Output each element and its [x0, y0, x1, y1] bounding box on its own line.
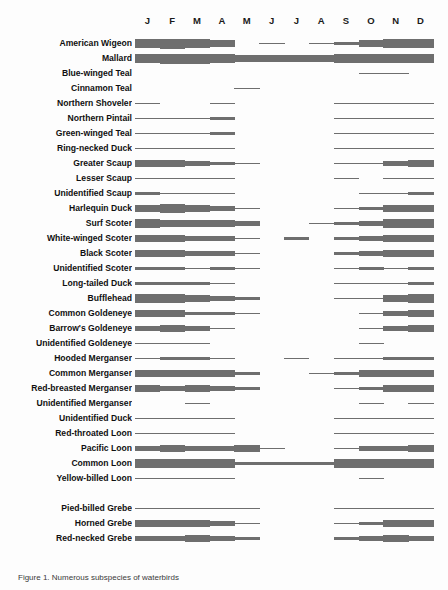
species-row[interactable]: Pied-billed Grebe	[0, 501, 448, 516]
band-segment	[383, 446, 408, 451]
abundance-band	[135, 126, 433, 141]
species-row[interactable]: Hooded Merganser	[0, 351, 448, 366]
band-segment	[383, 54, 408, 63]
species-row[interactable]: Common Merganser	[0, 366, 448, 381]
band-segment	[210, 148, 235, 149]
band-segment	[408, 310, 433, 317]
species-label: Hooded Merganser	[0, 351, 132, 366]
species-row[interactable]: Common Loon	[0, 456, 448, 471]
band-segment	[185, 282, 210, 285]
species-row[interactable]: Unidentified Goldeneye	[0, 336, 448, 351]
abundance-band	[135, 381, 433, 396]
band-segment	[334, 433, 359, 434]
band-segment	[160, 310, 185, 317]
species-row[interactable]: Barrow's Goldeneye	[0, 321, 448, 336]
species-row[interactable]: Cinnamon Teal	[0, 81, 448, 96]
species-row[interactable]: Green-winged Teal	[0, 126, 448, 141]
species-row[interactable]: Pacific Loon	[0, 441, 448, 456]
band-segment	[334, 523, 359, 524]
band-segment	[359, 133, 384, 134]
species-row[interactable]: Bufflehead	[0, 291, 448, 306]
band-segment	[408, 325, 433, 332]
species-row[interactable]: Common Goldeneye	[0, 306, 448, 321]
species-row[interactable]: Harlequin Duck	[0, 201, 448, 216]
species-row[interactable]: Unidentified Scaup	[0, 186, 448, 201]
species-row[interactable]: Black Scoter	[0, 246, 448, 261]
band-segment	[135, 343, 160, 344]
species-row[interactable]: Red-necked Grebe	[0, 531, 448, 546]
band-segment	[383, 148, 408, 149]
band-segment	[210, 40, 235, 47]
species-label: White-winged Scoter	[0, 231, 132, 246]
species-row[interactable]: Surf Scoter	[0, 216, 448, 231]
band-segment	[210, 433, 235, 434]
band-segment	[160, 294, 185, 303]
band-segment	[210, 54, 235, 63]
band-segment	[135, 235, 160, 242]
band-segment	[234, 387, 259, 390]
species-row[interactable]: Lesser Scaup	[0, 171, 448, 186]
band-segment	[284, 462, 309, 465]
band-segment	[334, 537, 359, 540]
band-segment	[383, 535, 408, 542]
species-row[interactable]: Northern Shoveler	[0, 96, 448, 111]
species-row[interactable]: Unidentified Scoter	[0, 261, 448, 276]
band-segment	[408, 54, 433, 63]
band-segment	[334, 222, 359, 225]
abundance-band	[135, 51, 433, 66]
band-segment	[185, 418, 210, 419]
band-segment	[334, 237, 359, 240]
waterbird-phenology-figure: JFMAMJJASOND American WigeonMallardBlue-…	[0, 0, 448, 590]
species-row[interactable]: Mallard	[0, 51, 448, 66]
species-row[interactable]: Yellow-billed Loon	[0, 471, 448, 486]
band-segment	[408, 536, 433, 541]
band-segment	[359, 251, 384, 256]
abundance-band	[135, 171, 433, 186]
band-segment	[309, 55, 334, 62]
species-row[interactable]: Long-tailed Duck	[0, 276, 448, 291]
species-label: Red-throated Loon	[0, 426, 132, 441]
band-segment	[359, 118, 384, 119]
species-row[interactable]: Horned Grebe	[0, 516, 448, 531]
band-segment	[135, 267, 160, 270]
species-row[interactable]: Unidentified Duck	[0, 411, 448, 426]
species-row[interactable]: Red-breasted Merganser	[0, 381, 448, 396]
species-row[interactable]: American Wigeon	[0, 36, 448, 51]
band-segment	[334, 418, 359, 419]
species-row[interactable]: Unidentified Merganser	[0, 396, 448, 411]
band-segment	[210, 103, 235, 104]
band-segment	[185, 535, 210, 542]
band-segment	[135, 39, 160, 48]
month-label-2: M	[185, 12, 210, 32]
band-segment	[408, 160, 433, 167]
species-row[interactable]: Blue-winged Teal	[0, 66, 448, 81]
band-segment	[210, 386, 235, 391]
band-segment	[185, 236, 210, 241]
species-row[interactable]: Red-throated Loon	[0, 426, 448, 441]
species-row[interactable]: Ring-necked Duck	[0, 141, 448, 156]
band-segment	[160, 478, 185, 479]
band-segment	[383, 193, 408, 194]
band-segment	[408, 250, 433, 257]
band-segment	[334, 178, 359, 179]
species-row[interactable]: White-winged Scoter	[0, 231, 448, 246]
abundance-band	[135, 366, 433, 381]
abundance-band	[135, 351, 433, 366]
band-segment	[185, 478, 210, 479]
band-segment	[234, 372, 259, 375]
abundance-band	[135, 336, 433, 351]
species-row[interactable]: Northern Pintail	[0, 111, 448, 126]
species-row[interactable]: Greater Scaup	[0, 156, 448, 171]
band-segment	[160, 204, 185, 213]
band-segment	[234, 253, 259, 254]
band-segment	[210, 267, 235, 270]
band-segment	[383, 311, 408, 316]
species-label: Greater Scaup	[0, 156, 132, 171]
band-segment	[359, 236, 384, 241]
band-segment	[135, 478, 160, 479]
band-segment	[234, 523, 259, 524]
band-segment	[359, 163, 384, 164]
band-segment	[135, 326, 160, 331]
band-segment	[210, 459, 235, 468]
band-segment	[210, 508, 235, 509]
